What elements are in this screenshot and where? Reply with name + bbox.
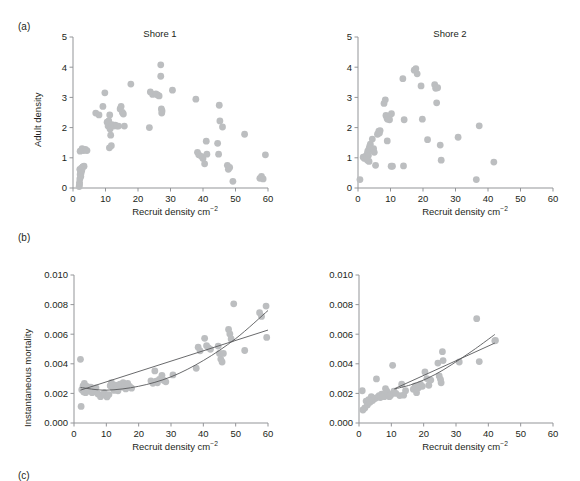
y-axis-title-adult-density: Adult density [32,93,43,147]
data-point [77,356,84,363]
x-tick-label: 60 [263,428,274,439]
x-tick-label: 10 [385,193,396,204]
x-tick-label: 40 [198,428,209,439]
data-point [215,151,222,158]
x-tick-label: 50 [515,428,526,439]
y-tick-label: 0.002 [329,388,353,399]
data-point [219,124,226,131]
data-point [260,176,267,183]
data-point [157,61,164,68]
data-point [384,137,391,144]
data-point [151,368,158,375]
chart-title-shore1: Shore 1 [120,28,200,39]
x-tick-label: 40 [483,193,494,204]
data-point [419,116,426,123]
y-tick-label: 0.006 [44,329,68,340]
data-point [78,403,85,410]
data-point [108,142,115,149]
data-point [101,89,108,96]
data-point [216,102,223,109]
data-point [159,108,166,115]
x-tick-label: 10 [100,193,111,204]
data-point [369,136,376,143]
x-tick-label: 30 [166,428,177,439]
data-point [422,369,429,376]
y-tick-label: 0.004 [44,358,68,369]
y-tick-label: 1 [347,152,352,163]
chart-title-shore2: Shore 2 [410,28,490,39]
data-point [76,181,83,188]
y-tick-label: 0.000 [44,417,68,428]
data-point [263,303,270,310]
y-tick-label: 2 [347,122,352,133]
data-point [127,81,134,88]
x-axis-title-text: Recruit density cm [422,441,500,452]
data-point [359,387,366,394]
x-tick-label: 0 [356,428,361,439]
data-point [77,173,84,180]
x-tick-label: 20 [133,193,144,204]
y-tick-label: 0.008 [329,299,353,310]
data-point [157,73,164,80]
data-point [434,84,441,91]
data-point [440,357,447,364]
data-point [388,110,395,117]
x-tick-label: 30 [165,193,176,204]
data-point [371,149,378,156]
data-point [263,334,270,341]
data-point [438,379,445,386]
data-point [419,383,426,390]
x-tick-label: 40 [198,193,209,204]
y-tick-label: 0.004 [329,358,353,369]
regression-curve-fit [80,311,268,391]
y-tick-label: 4 [62,62,67,73]
x-axis-title-recruit-density: Recruit density cm−2 [95,440,255,452]
data-point [115,123,122,130]
data-point [118,103,125,110]
x-axis-title-superscript: −2 [500,440,508,447]
x-axis-title-recruit-density: Recruit density cm−2 [385,205,545,217]
data-point [400,163,407,170]
data-point [473,176,480,183]
chart-a-shore2: Shore 2 Recruit density cm−2 01234501020… [285,0,580,232]
data-point [414,70,421,77]
y-tick-label: 0.006 [329,329,353,340]
data-point [438,157,445,164]
y-axis-title-instantaneous-mortality: Instantaneous mortality [22,329,33,427]
regression-linear-fit [80,330,268,390]
data-point [490,159,497,166]
data-point [492,337,499,344]
x-tick-label: 30 [450,193,461,204]
x-tick-label: 10 [101,428,112,439]
data-point [169,87,176,94]
data-point [220,350,227,357]
x-tick-label: 0 [70,193,75,204]
y-tick-label: 3 [347,92,352,103]
data-point [80,163,87,170]
y-tick-label: 2 [62,122,67,133]
chart-a-shore1: Shore 1 Adult density Recruit density cm… [0,0,290,232]
x-axis-title-superscript: −2 [500,205,508,212]
x-axis-title-text: Recruit density cm [132,441,210,452]
data-point [473,315,480,322]
data-point [120,111,127,118]
x-tick-label: 60 [548,428,559,439]
y-tick-label: 5 [62,31,67,42]
data-point [204,151,211,158]
x-tick-label: 10 [386,428,397,439]
data-point [389,362,396,369]
data-point [476,122,483,129]
x-axis-title-recruit-density: Recruit density cm−2 [95,205,255,217]
chart-b-shore1: Instantaneous mortality Recruit density … [0,232,290,477]
data-point [203,138,210,145]
x-tick-label: 50 [230,428,241,439]
data-point [217,118,224,125]
y-tick-label: 0 [62,182,67,193]
data-point [241,131,248,138]
data-point [146,124,153,131]
x-tick-label: 20 [418,193,429,204]
data-point [201,160,208,167]
data-point [433,99,440,106]
data-point [107,132,114,139]
